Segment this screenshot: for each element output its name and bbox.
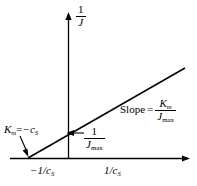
y-axis-label-numerator: 1 bbox=[76, 4, 86, 16]
plot-canvas bbox=[0, 0, 197, 186]
slope-relation: = bbox=[145, 103, 155, 115]
x-axis-tick-label-negative: −1/cS bbox=[30, 165, 54, 177]
slope-denominator-subscript: max bbox=[162, 115, 174, 122]
slope-annotation: Slope= Km Jmax bbox=[120, 98, 176, 122]
double-reciprocal-plot-figure: 1 J −1/cS 1/cS Km=−cS 1 Jmax Slope= Km J… bbox=[0, 0, 197, 186]
x-axis-tick-positive-subscript: S bbox=[117, 170, 120, 177]
x-axis-tick-label-positive: 1/cS bbox=[104, 165, 121, 177]
slope-numerator-subscript: m bbox=[167, 103, 172, 110]
slope-numerator: K bbox=[159, 97, 166, 109]
km-rhs-subscript: S bbox=[35, 129, 38, 136]
x-intercept-annotation: Km=−cS bbox=[4, 124, 38, 136]
x-axis-tick-negative-subscript: S bbox=[51, 170, 54, 177]
jmax-numerator: 1 bbox=[84, 126, 105, 138]
x-axis-tick-negative-text: −1/c bbox=[30, 164, 51, 176]
y-intercept-annotation: 1 Jmax bbox=[84, 126, 105, 150]
y-axis-label-denominator: J bbox=[76, 16, 86, 29]
x-axis-tick-positive-text: 1/c bbox=[104, 164, 117, 176]
y-axis-label: 1 J bbox=[76, 4, 86, 28]
slope-word: Slope bbox=[120, 103, 145, 115]
km-rhs: −c bbox=[22, 123, 34, 135]
x-intercept-leader-arrow bbox=[20, 136, 29, 157]
x-axis bbox=[10, 155, 190, 161]
jmax-denominator-subscript: max bbox=[91, 143, 103, 150]
